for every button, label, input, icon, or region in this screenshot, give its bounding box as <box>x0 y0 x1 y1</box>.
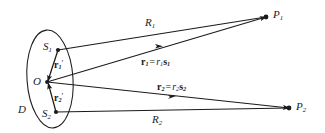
label-point-p2: P2 <box>296 101 306 113</box>
segment-r1-capital <box>58 17 266 50</box>
point-marker-p1 <box>264 15 269 20</box>
label-vector-r1-prime: r1′ <box>54 59 63 71</box>
label-distance-r2: R2 <box>152 114 162 126</box>
point-marker-o <box>45 80 49 84</box>
label-point-s1: S1 <box>43 41 52 53</box>
label-vector-r2-equation: r2=r2s2 <box>157 82 186 93</box>
label-region-d: D <box>18 104 26 115</box>
label-distance-r1: R1 <box>145 17 155 29</box>
figure-container: D S1 O S2 P1 P2 R1 R2 r1′ r2′ r1=r1s1 r2… <box>0 0 325 133</box>
label-vector-r1-equation: r1=r1s1 <box>141 57 170 68</box>
segment-r2-capital <box>56 108 289 112</box>
point-marker-s2 <box>54 110 58 114</box>
point-marker-p2 <box>287 106 292 111</box>
label-vector-r2-prime: r2′ <box>54 92 63 104</box>
label-point-s2: S2 <box>42 108 51 120</box>
point-marker-s1 <box>56 48 60 52</box>
label-point-o: O <box>33 76 41 87</box>
label-point-p1: P1 <box>273 9 283 21</box>
segment-r1-vector <box>47 17 266 82</box>
